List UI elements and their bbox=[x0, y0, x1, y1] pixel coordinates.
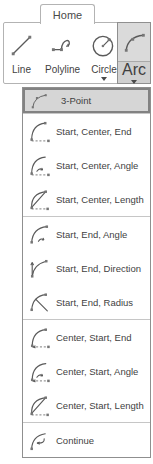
menu-group-3: Start, End, Angle Start, End, Direction … bbox=[23, 216, 150, 319]
polyline-icon bbox=[49, 26, 76, 64]
tool-circle-label: Circle bbox=[91, 64, 117, 75]
arc-label-zone[interactable]: Arc bbox=[118, 62, 150, 83]
ribbon-panel: Line Polyline Circle bbox=[3, 22, 151, 84]
menu-group-2: Start, Center, End Start, Center, Angle bbox=[23, 113, 150, 216]
arc-continue-icon bbox=[27, 428, 52, 453]
arc-start-center-angle-icon bbox=[27, 153, 52, 178]
arc-start-center-length-icon bbox=[27, 187, 52, 212]
menu-item-start-end-radius[interactable]: Start, End, Radius bbox=[23, 285, 150, 319]
tool-line[interactable]: Line bbox=[4, 23, 39, 83]
arc-start-center-end-icon bbox=[27, 119, 52, 144]
menu-item-center-start-end[interactable]: Center, Start, End bbox=[23, 320, 150, 354]
menu-item-label: Center, Start, Angle bbox=[56, 366, 138, 377]
menu-item-label: Start, End, Angle bbox=[56, 229, 127, 240]
menu-item-start-center-length[interactable]: Start, Center, Length bbox=[23, 182, 150, 216]
tool-polyline-label: Polyline bbox=[45, 64, 80, 75]
line-icon bbox=[8, 26, 35, 64]
arc-start-end-direction-icon bbox=[27, 256, 52, 281]
menu-group-4: Center, Start, End Center, Start, Angle bbox=[23, 319, 150, 422]
menu-item-start-center-end[interactable]: Start, Center, End bbox=[23, 114, 150, 148]
menu-item-label: 3-Point bbox=[61, 95, 91, 106]
menu-item-center-start-angle[interactable]: Center, Start, Angle bbox=[23, 354, 150, 388]
menu-item-label: Start, End, Direction bbox=[56, 263, 141, 274]
menu-group-5: Continue bbox=[23, 422, 150, 457]
arc-dropdown-caret[interactable] bbox=[131, 80, 137, 84]
menu-item-label: Continue bbox=[56, 435, 94, 446]
menu-item-start-center-angle[interactable]: Start, Center, Angle bbox=[23, 148, 150, 182]
arc-center-start-end-icon bbox=[27, 325, 52, 350]
arc-center-start-length-icon bbox=[27, 393, 52, 418]
menu-item-3-point[interactable]: 3-Point bbox=[23, 88, 150, 113]
menu-item-continue[interactable]: Continue bbox=[23, 423, 150, 457]
circle-dropdown-caret[interactable] bbox=[101, 77, 107, 81]
circle-icon bbox=[90, 26, 118, 64]
menu-item-label: Start, Center, End bbox=[56, 126, 132, 137]
arc-start-end-radius-icon bbox=[27, 290, 52, 315]
arc-3-point-icon bbox=[29, 91, 49, 111]
arc-start-end-angle-icon bbox=[27, 222, 52, 247]
home-tab[interactable]: Home bbox=[40, 4, 95, 24]
menu-item-start-end-angle[interactable]: Start, End, Angle bbox=[23, 217, 150, 251]
arc-icon bbox=[118, 23, 150, 62]
arc-flyout-menu: 3-Point Start, Center, End Start, bbox=[22, 87, 151, 458]
menu-item-start-end-direction[interactable]: Start, End, Direction bbox=[23, 251, 150, 285]
arc-center-start-angle-icon bbox=[27, 359, 52, 384]
menu-group-1: 3-Point bbox=[23, 88, 150, 113]
menu-item-label: Start, End, Radius bbox=[56, 297, 133, 308]
menu-item-center-start-length[interactable]: Center, Start, Length bbox=[23, 388, 150, 422]
tool-line-label: Line bbox=[12, 64, 31, 75]
tool-arc-label: Arc bbox=[122, 61, 146, 79]
tool-polyline[interactable]: Polyline bbox=[39, 23, 86, 83]
menu-item-label: Start, Center, Angle bbox=[56, 160, 138, 171]
menu-item-label: Center, Start, Length bbox=[56, 400, 144, 411]
app-canvas: { "tab": { "label": "Home" }, "ribbon": … bbox=[0, 0, 153, 464]
home-tab-label: Home bbox=[53, 9, 82, 21]
menu-item-label: Center, Start, End bbox=[56, 332, 132, 343]
menu-item-label: Start, Center, Length bbox=[56, 194, 144, 205]
tool-arc[interactable]: Arc bbox=[117, 22, 151, 84]
